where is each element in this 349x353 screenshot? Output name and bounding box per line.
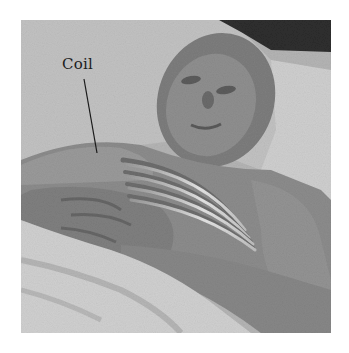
coil-annotation-label: Coil	[62, 55, 93, 73]
annotation-leader-line	[0, 0, 349, 353]
figure: Coil	[0, 0, 349, 353]
